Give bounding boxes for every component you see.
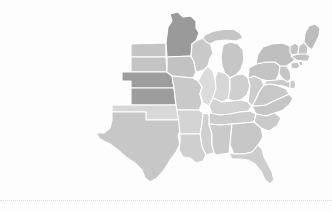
- state-SD[interactable]: [131, 57, 167, 72]
- state-KS[interactable]: [131, 88, 176, 105]
- state-ND[interactable]: [131, 43, 166, 57]
- choropleth-map-figure: [0, 0, 332, 212]
- state-IA[interactable]: [167, 56, 196, 78]
- map-page: [0, 0, 332, 212]
- state-TX[interactable]: [96, 112, 181, 182]
- state-IN[interactable]: [213, 71, 230, 102]
- state-AR[interactable]: [177, 110, 203, 134]
- us-map-svg[interactable]: [0, 0, 332, 212]
- state-DE[interactable]: [290, 80, 296, 89]
- state-NE[interactable]: [122, 72, 174, 88]
- footer-divider: [0, 200, 332, 201]
- state-OH[interactable]: [228, 74, 250, 101]
